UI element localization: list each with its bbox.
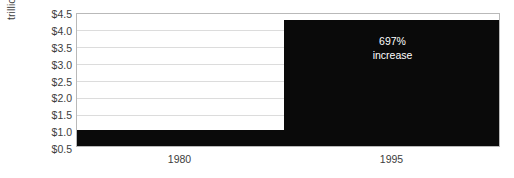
- bar-1980[interactable]: [77, 130, 284, 146]
- y-tick-label-1-0: $1.0: [30, 127, 72, 138]
- y-tick-label-4-0: $4.0: [30, 26, 72, 37]
- bar-1995[interactable]: [284, 20, 500, 146]
- y-axis-title: trillions of U.S. dollars: [0, 0, 22, 35]
- y-tick-label-2-0: $2.0: [30, 93, 72, 104]
- plot-area: 697% increase: [76, 13, 500, 147]
- y-tick-label-3-5: $3.5: [30, 43, 72, 54]
- x-axis-tick-labels: 1980 1995: [76, 152, 500, 170]
- y-tick-label-1-5: $1.5: [30, 110, 72, 121]
- y-axis-tick-labels: $4.5 $4.0 $3.5 $3.0 $2.5 $2.0 $1.5 $1.0 …: [30, 13, 72, 147]
- y-tick-label-2-5: $2.5: [30, 77, 72, 88]
- bar-chart-figure: trillions of U.S. dollars $4.5 $4.0 $3.5…: [0, 0, 514, 178]
- x-tick-label-1980: 1980: [76, 152, 283, 166]
- y-tick-label-3-0: $3.0: [30, 60, 72, 71]
- y-tick-label-4-5: $4.5: [30, 9, 72, 20]
- x-tick-label-1995: 1995: [283, 152, 500, 166]
- y-tick-label-0-5: $0.5: [30, 144, 72, 155]
